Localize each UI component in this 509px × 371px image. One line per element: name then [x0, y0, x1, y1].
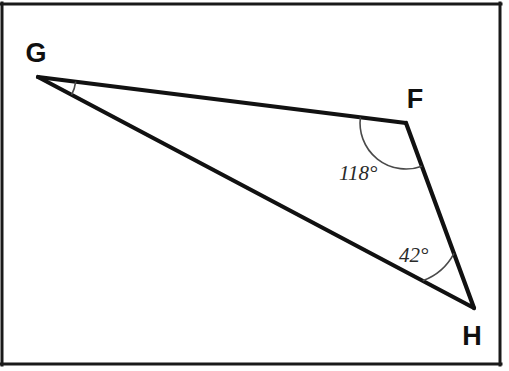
vertex-label-H: H: [462, 321, 482, 351]
angle-label-H: 42°: [399, 243, 429, 267]
angle-arc-G: [72, 82, 76, 95]
angle-label-F: 118°: [339, 161, 378, 185]
diagram-canvas: G F H 118° 42°: [0, 0, 509, 371]
side-FH: [406, 123, 474, 308]
figure-frame: [1, 3, 501, 365]
vertex-label-G: G: [25, 38, 46, 68]
angle-arcs: [72, 82, 454, 281]
side-GF: [38, 77, 406, 123]
vertex-label-F: F: [407, 84, 424, 114]
geometry-figure: G F H 118° 42°: [0, 0, 509, 371]
